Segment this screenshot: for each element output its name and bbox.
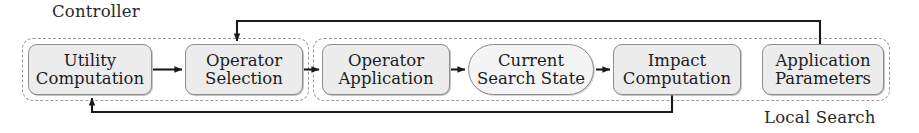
node-utility-computation-line-1: Utility <box>64 52 116 69</box>
node-current-search-state-line-1: Current <box>498 52 564 69</box>
node-application-parameters-line-1: Application <box>775 52 870 69</box>
node-utility-computation-line-2: Computation <box>36 70 144 87</box>
node-operator-selection[interactable]: Operator Selection <box>185 44 303 95</box>
node-current-search-state-line-2: Search State <box>477 70 585 87</box>
node-operator-application-line-1: Operator <box>348 52 424 69</box>
group-controller-label: Controller <box>52 2 140 21</box>
node-impact-computation[interactable]: Impact Computation <box>613 44 741 95</box>
node-operator-application-line-2: Application <box>338 70 433 87</box>
node-application-parameters[interactable]: Application Parameters <box>762 44 884 95</box>
node-current-search-state[interactable]: Current Search State <box>468 44 594 95</box>
node-application-parameters-line-2: Parameters <box>775 70 871 87</box>
node-operator-selection-line-2: Selection <box>205 70 283 87</box>
node-impact-computation-line-2: Computation <box>623 70 731 87</box>
node-impact-computation-line-1: Impact <box>648 52 706 69</box>
node-operator-selection-line-1: Operator <box>206 52 282 69</box>
node-operator-application[interactable]: Operator Application <box>322 44 450 95</box>
node-utility-computation[interactable]: Utility Computation <box>28 44 152 95</box>
architecture-diagram: Controller Local Search Utility Computat… <box>0 0 919 133</box>
group-local-search-label: Local Search <box>764 108 876 127</box>
